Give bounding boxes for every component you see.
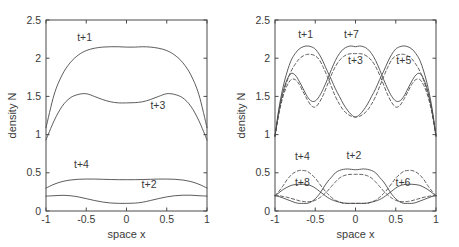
x-axis-title-left: space x: [108, 228, 146, 240]
curve-label-right-tplus4: t+4: [295, 150, 310, 162]
curve-label-right-tplus6: t+6: [396, 176, 411, 188]
x-tick-label-right-4: 1: [433, 213, 439, 225]
y-axis-title-left: density N: [6, 93, 18, 139]
curve-label-left-tplus4: t+4: [74, 158, 89, 170]
figure-container: -1-0.500.5100.511.522.5space xdensity Nt…: [0, 0, 459, 247]
plot-box-left: [46, 20, 207, 211]
curve-label-right-tplus7: t+7: [344, 28, 359, 40]
chart-svg-left: -1-0.500.5100.511.522.5space xdensity Nt…: [0, 0, 230, 247]
x-tick-label-left-4: 1: [204, 213, 210, 225]
curve-left-tplus2: [46, 195, 207, 203]
x-tick-label-left-1: -0.5: [77, 213, 95, 225]
x-tick-label-right-3: 0.5: [388, 213, 403, 225]
curve-label-right-tplus5: t+5: [396, 54, 411, 66]
chart-svg-right: -1-0.500.5100.511.522.5space xdensity Nt…: [229, 0, 459, 247]
plot-group-right: -1-0.500.5100.511.522.5space xdensity Nt…: [235, 14, 439, 240]
x-tick-label-left-0: -1: [41, 213, 50, 225]
y-tick-label-left-5: 2.5: [26, 14, 41, 26]
x-tick-label-left-2: 0: [124, 213, 130, 225]
chart-panel-left: -1-0.500.5100.511.522.5space xdensity Nt…: [0, 0, 230, 247]
chart-panel-right: -1-0.500.5100.511.522.5space xdensity Nt…: [229, 0, 459, 247]
curve-left-tplus3: [46, 94, 207, 140]
curve-right-tplus3: [275, 54, 436, 136]
x-tick-label-right-2: 0: [353, 213, 359, 225]
plot-group-left: -1-0.500.5100.511.522.5space xdensity Nt…: [6, 14, 210, 240]
y-tick-label-left-0: 0: [35, 205, 41, 217]
y-tick-label-right-1: 0.5: [255, 166, 270, 178]
curve-label-left-tplus3: t+3: [150, 99, 165, 111]
y-tick-label-right-3: 1.5: [255, 90, 270, 102]
y-tick-label-left-3: 1.5: [26, 90, 41, 102]
curve-label-right-tplus8: t+8: [295, 176, 310, 188]
curve-left-tplus4: [46, 179, 207, 188]
y-tick-label-right-5: 2.5: [255, 14, 270, 26]
x-tick-label-left-3: 0.5: [159, 213, 174, 225]
curve-left-tplus1: [46, 47, 207, 128]
y-tick-label-left-1: 0.5: [26, 166, 41, 178]
curve-label-right-tplus1: t+1: [298, 28, 313, 40]
curve-label-right-tplus3: t+3: [348, 54, 363, 66]
x-axis-title-right: space x: [337, 228, 375, 240]
y-axis-title-right: density N: [235, 93, 247, 139]
y-tick-label-left-4: 2: [35, 52, 41, 64]
curve-label-right-tplus2: t+2: [346, 149, 361, 161]
curve-label-left-tplus2: t+2: [142, 178, 157, 190]
y-tick-label-right-0: 0: [264, 205, 270, 217]
curve-label-left-tplus1: t+1: [77, 31, 92, 43]
y-tick-label-left-2: 1: [35, 128, 41, 140]
y-tick-label-right-2: 1: [264, 128, 270, 140]
x-tick-label-right-1: -0.5: [306, 213, 324, 225]
x-tick-label-right-0: -1: [270, 213, 279, 225]
y-tick-label-right-4: 2: [264, 52, 270, 64]
